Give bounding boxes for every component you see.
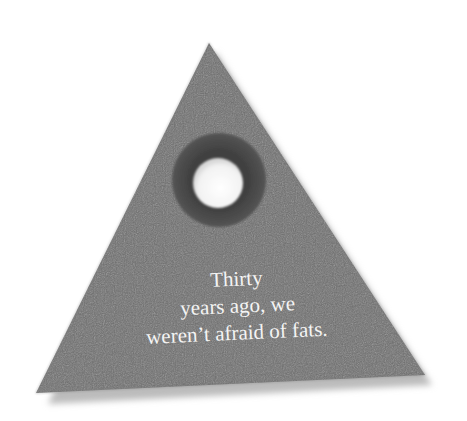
triangle-graphic: Thirty years ago, we weren’t afraid of f… [0, 0, 467, 421]
ring-hole-icon [172, 133, 266, 227]
caption-line-1: Thirty [210, 266, 264, 292]
triangle-figure: Thirty years ago, we weren’t afraid of f… [0, 0, 467, 421]
